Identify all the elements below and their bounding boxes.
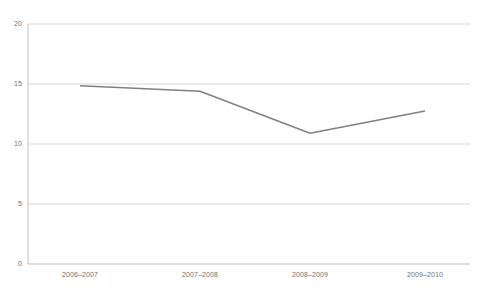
y-tick-label-5: 5 xyxy=(4,200,22,208)
y-tick-label-10: 10 xyxy=(4,140,22,148)
series-line-0 xyxy=(80,86,425,133)
y-tick-label-15: 15 xyxy=(4,80,22,88)
line-chart: 20 15 10 5 0 2006–2007 2007–2008 2008–20… xyxy=(0,0,491,296)
x-tick-label-2007-2008: 2007–2008 xyxy=(155,271,245,279)
y-tick-label-0: 0 xyxy=(4,260,22,268)
x-tick-label-2006-2007: 2006–2007 xyxy=(35,271,125,279)
x-tick-label-2008-2009: 2008–2009 xyxy=(265,271,355,279)
x-tick-label-2009-2010: 2009–2010 xyxy=(380,271,470,279)
y-tick-label-20: 20 xyxy=(4,20,22,28)
plot-area xyxy=(0,0,491,296)
